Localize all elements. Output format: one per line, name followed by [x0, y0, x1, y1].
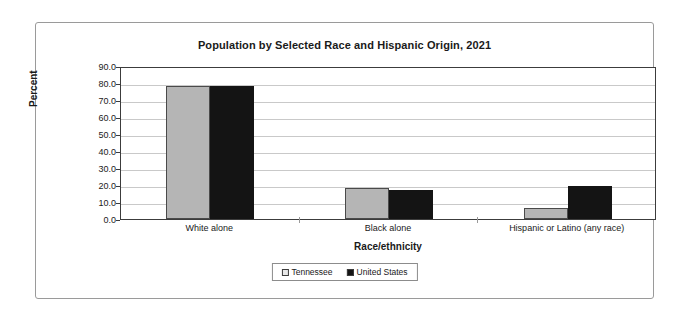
plot-area: [120, 67, 656, 220]
plot-wrapper: [120, 67, 656, 220]
y-axis-tick-mark: [116, 220, 120, 221]
legend-swatch-icon: [347, 269, 354, 276]
y-axis-title: Percent: [28, 70, 39, 107]
y-axis-tick-label: 60.0: [82, 113, 116, 123]
legend-label: United States: [357, 267, 408, 277]
chart-title: Population by Selected Race and Hispanic…: [36, 39, 653, 51]
y-axis-tick-labels: 0.010.020.030.040.050.060.070.080.090.0: [80, 67, 116, 220]
bar-united-states: [389, 190, 433, 219]
y-axis-tick-label: 30.0: [82, 164, 116, 174]
bar-united-states: [210, 86, 254, 219]
y-axis-tick-label: 20.0: [82, 181, 116, 191]
bar-tennessee: [524, 208, 568, 219]
x-axis-tick-label: Black alone: [365, 223, 412, 233]
y-axis-tick-label: 90.0: [82, 62, 116, 72]
legend-label: Tennessee: [291, 267, 332, 277]
x-axis-tick-labels: White aloneBlack aloneHispanic or Latino…: [120, 223, 656, 239]
chart-frame: Population by Selected Race and Hispanic…: [35, 22, 654, 299]
bar-united-states: [568, 186, 612, 219]
x-axis-tick-label: Hispanic or Latino (any race): [509, 223, 624, 233]
y-axis-tick-label: 80.0: [82, 79, 116, 89]
bar-tennessee: [345, 188, 389, 219]
legend-item-united-states: United States: [347, 267, 408, 277]
y-axis-tick-label: 70.0: [82, 96, 116, 106]
legend-swatch-icon: [281, 269, 288, 276]
x-axis-tick-label: White alone: [186, 223, 234, 233]
legend-item-tennessee: Tennessee: [281, 267, 332, 277]
bar-tennessee: [166, 86, 210, 219]
chart-legend: TennesseeUnited States: [271, 263, 417, 281]
y-axis-tick-label: 50.0: [82, 130, 116, 140]
y-axis-tick-label: 40.0: [82, 147, 116, 157]
y-axis-tick-label: 0.0: [82, 215, 116, 225]
x-axis-tick-mark: [299, 217, 300, 223]
x-axis-tick-mark: [477, 217, 478, 223]
x-axis-title: Race/ethnicity: [120, 241, 656, 252]
y-axis-tick-label: 10.0: [82, 198, 116, 208]
